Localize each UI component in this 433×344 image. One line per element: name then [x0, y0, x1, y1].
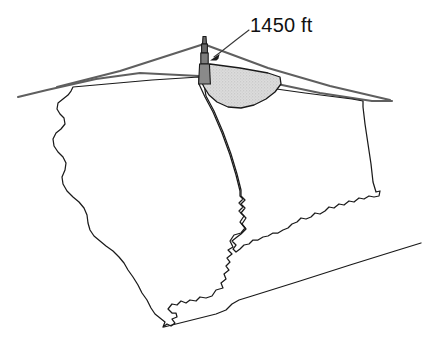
illinois-outline: [53, 77, 245, 327]
tower-segment-middle: [201, 53, 208, 64]
tower-segment-upper: [202, 44, 208, 53]
broadcast-tower: [199, 37, 211, 85]
callout-leader-line: [214, 30, 249, 57]
figure-root: 1450 ft: [0, 0, 433, 344]
tower-spire: [203, 37, 207, 45]
southern-border-line: [164, 243, 421, 327]
callout-arrow-head: [210, 54, 220, 61]
callout-label: 1450 ft: [250, 14, 313, 36]
map-illustration-canvas: 1450 ft: [0, 0, 433, 344]
horizon-line-right-lower: [263, 81, 392, 101]
horizon-line-upper-left: [57, 44, 204, 87]
signal-coverage-footprint: [200, 64, 281, 108]
horizon-line-lower-left: [18, 73, 199, 97]
indiana-outline: [204, 84, 380, 252]
callout-leader: [210, 30, 249, 61]
tower-segment-base: [199, 64, 211, 84]
